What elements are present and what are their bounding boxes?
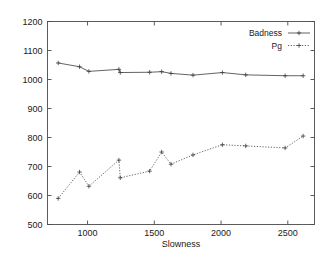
data-point-pg [147, 169, 151, 173]
data-point-badness [56, 61, 60, 65]
y-axis-tick-label: 1100 [23, 46, 42, 56]
y-axis-tick-label: 900 [27, 104, 42, 114]
data-point-badness [301, 74, 305, 78]
series-line-pg [58, 136, 303, 198]
data-point-pg [301, 134, 305, 138]
chart-container: 5006007008009001000110012001000150020002… [0, 0, 335, 267]
data-point-pg [87, 184, 91, 188]
data-point-pg [220, 143, 224, 147]
x-axis-tick-label: 2000 [211, 228, 231, 238]
data-point-pg [283, 146, 287, 150]
plot-frame [48, 22, 315, 225]
data-point-badness [220, 70, 224, 74]
x-axis-tick-label: 2500 [278, 228, 298, 238]
data-point-badness [283, 74, 287, 78]
legend-label-pg: Pg [272, 41, 283, 51]
data-point-pg [191, 153, 195, 157]
y-axis-tick-label: 600 [27, 191, 42, 201]
data-point-pg [244, 144, 248, 148]
data-point-pg [117, 158, 121, 162]
data-point-badness [87, 69, 91, 73]
y-axis-tick-label: 1000 [22, 75, 42, 85]
x-axis-tick-label: 1000 [78, 228, 98, 238]
legend-marker-badness [297, 31, 301, 35]
legend-marker-pg [297, 43, 301, 47]
data-point-badness [191, 73, 195, 77]
y-axis-tick-label: 700 [27, 162, 42, 172]
data-point-badness [244, 73, 248, 77]
data-point-pg [118, 176, 122, 180]
data-point-badness [77, 65, 81, 69]
data-point-badness [169, 71, 173, 75]
x-axis-tick-label: 1500 [144, 228, 164, 238]
legend-label-badness: Badness [249, 28, 282, 38]
y-axis-tick-label: 500 [27, 220, 42, 230]
series-line-badness [58, 63, 303, 76]
y-axis-tick-label: 800 [27, 133, 42, 143]
x-axis-title: Slowness [162, 239, 201, 249]
data-point-badness [147, 70, 151, 74]
data-point-pg [56, 196, 60, 200]
data-point-badness [159, 69, 163, 73]
y-axis-tick-label: 1200 [22, 17, 42, 27]
line-chart: 5006007008009001000110012001000150020002… [0, 0, 335, 267]
